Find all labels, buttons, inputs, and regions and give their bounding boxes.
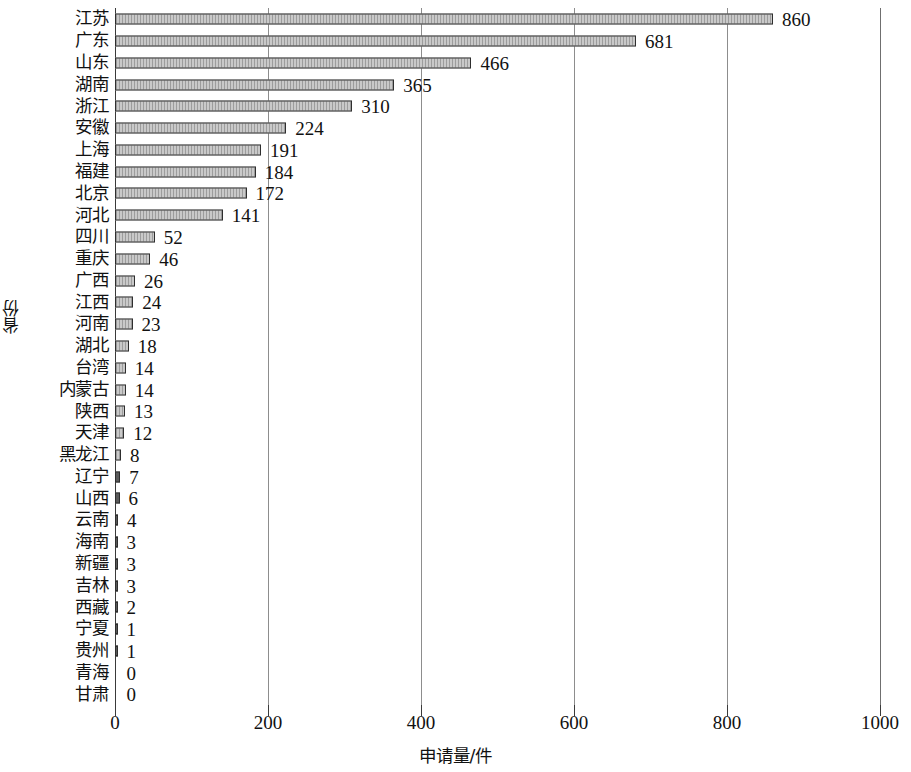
bar-row: 3 bbox=[115, 574, 880, 596]
bar-value-label: 2 bbox=[127, 598, 137, 617]
y-axis-tick-label: 江西 bbox=[0, 291, 108, 313]
bar bbox=[115, 362, 126, 373]
y-axis-tick-labels: 江苏广东山东湖南浙江安徽上海福建北京河北四川重庆广西江西河南湖北台湾内蒙古陕西天… bbox=[0, 8, 112, 705]
y-axis-tick-label: 天津 bbox=[0, 422, 108, 444]
bar-row: 18 bbox=[115, 335, 880, 357]
bar-row: 3 bbox=[115, 531, 880, 553]
y-axis-tick-label: 陕西 bbox=[0, 400, 108, 422]
bar-row: 24 bbox=[115, 291, 880, 313]
bar bbox=[115, 645, 118, 656]
bar-value-label: 1 bbox=[127, 620, 137, 639]
bar bbox=[115, 123, 286, 134]
y-axis-tick-label: 山东 bbox=[0, 52, 108, 74]
bar-row: 7 bbox=[115, 465, 880, 487]
bar-row: 1 bbox=[115, 618, 880, 640]
bar-value-label: 681 bbox=[645, 32, 674, 51]
bar-row: 0 bbox=[115, 661, 880, 683]
bar-row: 6 bbox=[115, 487, 880, 509]
bar-value-label: 0 bbox=[127, 685, 137, 704]
bar-value-label: 18 bbox=[138, 336, 157, 355]
gridline-1000 bbox=[880, 8, 881, 705]
y-axis-tick-label: 青海 bbox=[0, 661, 108, 683]
bar-value-label: 23 bbox=[142, 315, 161, 334]
bar-row: 365 bbox=[115, 73, 880, 95]
y-axis-tick-label: 新疆 bbox=[0, 553, 108, 575]
y-axis-tick-label: 广西 bbox=[0, 269, 108, 291]
bar-value-label: 13 bbox=[134, 402, 153, 421]
y-axis-tick-label: 黑龙江 bbox=[0, 444, 108, 466]
y-axis-tick-label: 山西 bbox=[0, 487, 108, 509]
bar-value-label: 172 bbox=[256, 184, 285, 203]
bar bbox=[115, 79, 394, 90]
plot-area: 8606814663653102241911841721415246262423… bbox=[115, 8, 880, 705]
y-axis-tick-label: 河南 bbox=[0, 313, 108, 335]
bar-value-label: 6 bbox=[129, 489, 139, 508]
bar-value-label: 4 bbox=[127, 511, 137, 530]
bar-value-label: 3 bbox=[127, 532, 137, 551]
bar bbox=[115, 57, 471, 68]
bar bbox=[115, 536, 118, 547]
y-axis-tick-label: 西藏 bbox=[0, 596, 108, 618]
bar bbox=[115, 166, 256, 177]
bar-row: 191 bbox=[115, 139, 880, 161]
bar bbox=[115, 210, 223, 221]
bar bbox=[115, 558, 118, 569]
bar-value-label: 46 bbox=[159, 249, 178, 268]
bar-row: 0 bbox=[115, 683, 880, 705]
bar-value-label: 8 bbox=[130, 445, 140, 464]
bar-row: 2 bbox=[115, 596, 880, 618]
bar-value-label: 466 bbox=[480, 53, 509, 72]
bar-row: 8 bbox=[115, 444, 880, 466]
bar-value-label: 184 bbox=[265, 162, 294, 181]
bar-value-label: 12 bbox=[133, 424, 152, 443]
bar-row: 14 bbox=[115, 378, 880, 400]
x-tick-label: 200 bbox=[254, 712, 283, 734]
bar-row: 26 bbox=[115, 269, 880, 291]
x-tick-label: 0 bbox=[110, 712, 120, 734]
y-axis-tick-label: 宁夏 bbox=[0, 618, 108, 640]
y-axis-tick-label: 贵州 bbox=[0, 640, 108, 662]
bar-value-label: 191 bbox=[270, 140, 299, 159]
bar bbox=[115, 275, 135, 286]
y-axis-tick-label: 湖南 bbox=[0, 73, 108, 95]
bar-row: 224 bbox=[115, 117, 880, 139]
bar-row: 860 bbox=[115, 8, 880, 30]
bar bbox=[115, 232, 155, 243]
bar-value-label: 141 bbox=[232, 206, 261, 225]
bar bbox=[115, 624, 118, 635]
y-axis-tick-label: 重庆 bbox=[0, 248, 108, 270]
bar bbox=[115, 188, 247, 199]
bar-value-label: 14 bbox=[135, 380, 154, 399]
bar bbox=[115, 36, 636, 47]
bar bbox=[115, 406, 125, 417]
bar bbox=[115, 297, 133, 308]
y-axis-tick-label: 四川 bbox=[0, 226, 108, 248]
bar-value-label: 310 bbox=[361, 97, 390, 116]
bar-row: 184 bbox=[115, 160, 880, 182]
x-axis-title: 申请量/件 bbox=[0, 742, 911, 767]
y-axis-tick-label: 云南 bbox=[0, 509, 108, 531]
bar-row: 46 bbox=[115, 248, 880, 270]
bar bbox=[115, 253, 150, 264]
x-tick-label: 400 bbox=[407, 712, 436, 734]
bar-value-label: 3 bbox=[127, 576, 137, 595]
y-axis-tick-label: 江苏 bbox=[0, 8, 108, 30]
bar bbox=[115, 515, 118, 526]
y-axis-tick-label: 吉林 bbox=[0, 574, 108, 596]
bar bbox=[115, 144, 261, 155]
bar-row: 141 bbox=[115, 204, 880, 226]
bar-value-label: 860 bbox=[782, 10, 811, 29]
bar-chart: 省份 江苏广东山东湖南浙江安徽上海福建北京河北四川重庆广西江西河南湖北台湾内蒙古… bbox=[0, 0, 911, 772]
bar-value-label: 3 bbox=[127, 554, 137, 573]
bar bbox=[115, 602, 118, 613]
y-axis-tick-label: 湖北 bbox=[0, 335, 108, 357]
bar bbox=[115, 14, 773, 25]
bar bbox=[115, 471, 120, 482]
bar bbox=[115, 449, 121, 460]
bar bbox=[115, 319, 133, 330]
bar bbox=[115, 340, 129, 351]
y-axis-tick-label: 安徽 bbox=[0, 117, 108, 139]
y-axis-tick-label: 海南 bbox=[0, 531, 108, 553]
y-axis-tick-label: 北京 bbox=[0, 182, 108, 204]
bar-value-label: 26 bbox=[144, 271, 163, 290]
